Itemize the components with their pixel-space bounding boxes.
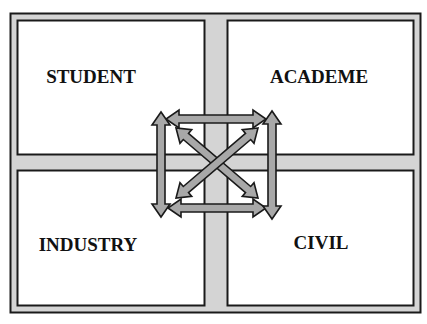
label-student: STUDENT <box>46 66 136 87</box>
quadrant-box-student <box>18 21 205 155</box>
collaboration-diagram: STUDENT ACADEME INDUSTRY CIVIL <box>0 0 427 324</box>
label-civil: CIVIL <box>294 232 349 253</box>
label-industry: INDUSTRY <box>39 234 138 255</box>
label-academe: ACADEME <box>270 66 368 87</box>
